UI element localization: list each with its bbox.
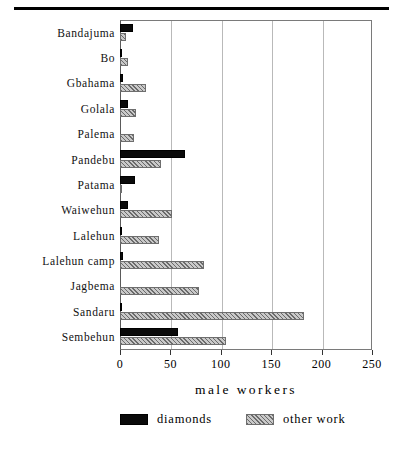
bar-other-waiwehun (120, 210, 172, 218)
x-tick-label-0: 0 (117, 357, 124, 372)
legend-label-diamonds: diamonds (157, 412, 212, 427)
bar-group-lalehun-camp: Lalehun camp (120, 249, 372, 274)
x-tick-200 (322, 350, 323, 355)
category-label-waiwehun: Waiwehun (61, 204, 115, 216)
bar-other-bandajuma (120, 33, 126, 41)
bar-diamonds-bandajuma (120, 24, 133, 32)
bar-diamonds-pandebu (120, 150, 185, 158)
bar-other-golala (120, 109, 136, 117)
x-axis: 0 50 100 150 200 250 (120, 350, 372, 356)
bar-rows: Bandajuma Bo Gbahama Golala Palema Pande… (120, 20, 372, 350)
category-label-jagbema: Jagbema (71, 280, 115, 292)
x-tick-label-200: 200 (312, 357, 332, 372)
bar-other-patama (120, 185, 122, 193)
bar-group-gbahama: Gbahama (120, 71, 372, 96)
x-tick-150 (271, 350, 272, 355)
bar-diamonds-waiwehun (120, 201, 128, 209)
bar-diamonds-sembehun (120, 328, 178, 336)
x-tick-100 (221, 350, 222, 355)
category-label-lalehun: Lalehun (73, 230, 115, 242)
category-label-bo: Bo (100, 52, 115, 64)
bar-group-palema: Palema (120, 122, 372, 147)
bar-diamonds-golala (120, 100, 128, 108)
legend-label-other-work: other work (283, 412, 346, 427)
bar-other-bo (120, 58, 128, 66)
x-tick-50 (170, 350, 171, 355)
bar-group-lalehun: Lalehun (120, 223, 372, 248)
bar-diamonds-sandaru (120, 303, 122, 311)
bar-other-gbahama (120, 84, 146, 92)
category-label-lalehun-camp: Lalehun camp (42, 255, 115, 267)
x-tick-label-150: 150 (261, 357, 281, 372)
bar-diamonds-patama (120, 176, 135, 184)
bar-group-golala: Golala (120, 96, 372, 121)
bar-group-bandajuma: Bandajuma (120, 20, 372, 45)
legend-item-other-work: other work (246, 412, 346, 427)
bar-other-sandaru (120, 312, 304, 320)
bar-group-jagbema: Jagbema (120, 274, 372, 299)
category-label-palema: Palema (78, 128, 115, 140)
bar-group-sembehun: Sembehun (120, 325, 372, 350)
bar-diamonds-gbahama (120, 74, 123, 82)
x-tick-label-250: 250 (362, 357, 382, 372)
bar-group-bo: Bo (120, 45, 372, 70)
bar-other-lalehun (120, 236, 159, 244)
bar-other-pandebu (120, 160, 161, 168)
bar-other-sembehun (120, 337, 226, 345)
bar-other-palema (120, 134, 134, 142)
bar-group-sandaru: Sandaru (120, 299, 372, 324)
bar-group-pandebu: Pandebu (120, 147, 372, 172)
x-tick-0 (120, 350, 121, 355)
legend-swatch-other-work-icon (246, 414, 274, 425)
category-label-sandaru: Sandaru (73, 306, 115, 318)
header-rule (14, 7, 389, 10)
bar-group-waiwehun: Waiwehun (120, 198, 372, 223)
x-tick-label-100: 100 (211, 357, 231, 372)
category-label-bandajuma: Bandajuma (57, 27, 115, 39)
category-label-golala: Golala (81, 103, 115, 115)
x-axis-label: male workers (120, 382, 372, 398)
bar-group-patama: Patama (120, 172, 372, 197)
bar-diamonds-lalehun (120, 227, 122, 235)
category-label-sembehun: Sembehun (62, 331, 115, 343)
category-label-patama: Patama (78, 179, 115, 191)
bar-diamonds-bo (120, 49, 122, 57)
category-label-gbahama: Gbahama (67, 77, 115, 89)
bar-chart-figure: Bandajuma Bo Gbahama Golala Palema Pande… (0, 0, 403, 450)
bar-other-lalehun-camp (120, 261, 204, 269)
legend-swatch-diamonds-icon (120, 414, 148, 425)
category-label-pandebu: Pandebu (71, 154, 115, 166)
chart-legend: diamonds other work (120, 412, 382, 427)
bar-other-jagbema (120, 287, 199, 295)
legend-item-diamonds: diamonds (120, 412, 212, 427)
x-tick-250 (372, 350, 373, 355)
x-tick-label-50: 50 (164, 357, 177, 372)
bar-diamonds-lalehun-camp (120, 252, 123, 260)
